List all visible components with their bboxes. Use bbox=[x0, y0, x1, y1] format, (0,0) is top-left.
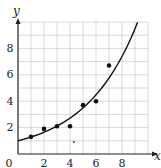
x-tick-label: 8 bbox=[119, 157, 126, 168]
x-tick-label: 4 bbox=[67, 157, 74, 168]
scatter-chart: 0 2 4 6 8 2 4 6 8 x y bbox=[0, 0, 161, 168]
asterisk-mark-icon bbox=[73, 141, 75, 143]
x-tick-label: 6 bbox=[93, 157, 100, 168]
data-point bbox=[68, 124, 73, 129]
y-axis-label: y bbox=[12, 4, 20, 18]
data-point bbox=[94, 99, 99, 104]
x-tick-label: 2 bbox=[41, 157, 48, 168]
data-point bbox=[107, 63, 112, 68]
exponential-fit-curve bbox=[18, 22, 138, 140]
data-point bbox=[42, 127, 47, 132]
y-tick-label: 6 bbox=[7, 68, 14, 81]
data-point bbox=[55, 124, 60, 129]
y-axis-arrow-icon bbox=[16, 18, 21, 24]
data-point bbox=[29, 135, 34, 140]
data-point bbox=[81, 103, 86, 108]
y-tick-label: 4 bbox=[7, 95, 14, 108]
y-tick-label: 2 bbox=[7, 121, 14, 134]
x-axis-label: x bbox=[154, 149, 161, 163]
origin-label: 0 bbox=[6, 157, 13, 168]
y-tick-label: 8 bbox=[7, 42, 14, 55]
